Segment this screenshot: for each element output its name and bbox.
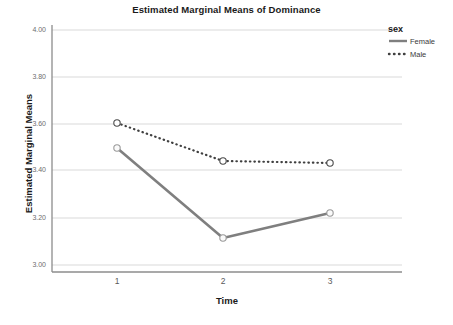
legend-title: sex (388, 24, 403, 34)
legend-label-male: Male (410, 50, 426, 59)
series-male-markers (114, 120, 333, 166)
plot-area (0, 0, 453, 325)
series-male-line (117, 123, 330, 163)
legend-label-female: Female (410, 37, 435, 46)
axis-lines (52, 25, 402, 272)
gridlines (52, 30, 402, 265)
chart-container: Estimated Marginal Means of Dominance Es… (0, 0, 453, 325)
legend-item-male: Male (410, 49, 426, 59)
legend-item-female: Female (410, 36, 435, 46)
